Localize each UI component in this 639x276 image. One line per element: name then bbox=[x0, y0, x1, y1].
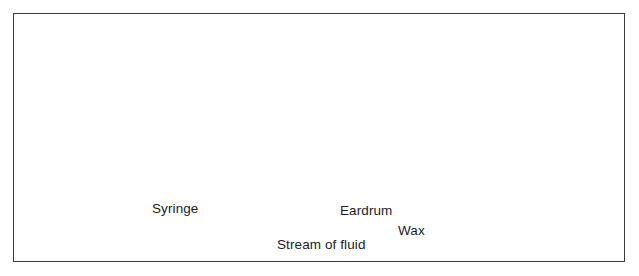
label-eardrum: Eardrum bbox=[340, 204, 392, 218]
label-syringe: Syringe bbox=[152, 202, 198, 216]
illustration-frame bbox=[13, 13, 625, 262]
illustration-stage: Syringe Eardrum Wax Stream of fluid bbox=[0, 0, 639, 276]
label-wax: Wax bbox=[398, 224, 425, 238]
label-stream-of-fluid: Stream of fluid bbox=[277, 238, 366, 252]
